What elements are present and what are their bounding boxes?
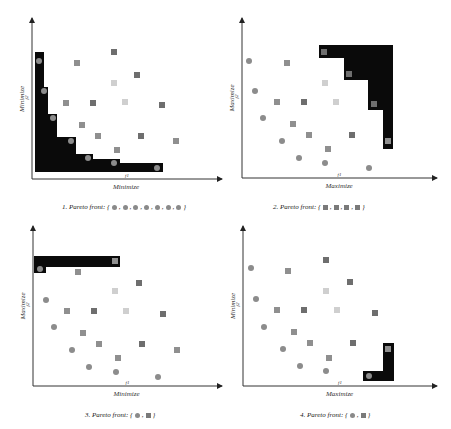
circle-symbol-icon xyxy=(176,205,181,210)
solution-square xyxy=(91,308,97,314)
solution-square xyxy=(321,49,327,55)
solution-square xyxy=(322,80,328,86)
y-axis-tick: f2 xyxy=(234,95,239,99)
solution-square xyxy=(64,308,70,314)
solution-square xyxy=(75,269,81,275)
separator: , xyxy=(151,203,153,211)
solution-square xyxy=(346,71,352,77)
solution-circle xyxy=(261,324,267,330)
solution-circle xyxy=(323,368,329,374)
caption-text: 3. Pareto front: { xyxy=(85,411,133,419)
x-axis-tick: f1 xyxy=(125,173,129,178)
square-symbol-icon xyxy=(361,413,366,418)
circle-symbol-icon xyxy=(350,413,355,418)
solution-circle xyxy=(260,115,266,121)
solution-square xyxy=(323,257,329,263)
pareto-front-region xyxy=(319,45,393,149)
solution-square xyxy=(123,308,129,314)
solution-circle xyxy=(51,324,57,330)
separator: , xyxy=(351,203,353,211)
solution-square xyxy=(301,307,307,313)
solution-square xyxy=(385,346,391,352)
solution-square xyxy=(80,330,86,336)
separator: , xyxy=(119,203,121,211)
solution-square xyxy=(301,99,307,105)
circle-symbol-icon xyxy=(123,205,128,210)
solution-square xyxy=(334,307,340,313)
circle-symbol-icon xyxy=(135,413,140,418)
separator: , xyxy=(130,203,132,211)
solution-square xyxy=(63,100,69,106)
solution-circle xyxy=(279,138,285,144)
solution-square xyxy=(115,355,121,361)
separator: , xyxy=(162,203,164,211)
square-symbol-icon xyxy=(334,205,339,210)
solution-square xyxy=(90,100,96,106)
circle-symbol-icon xyxy=(166,205,171,210)
solution-circle xyxy=(36,58,42,64)
circle-symbol-icon xyxy=(144,205,149,210)
solution-circle xyxy=(41,88,47,94)
solution-square xyxy=(371,101,377,107)
caption-text: 1. Pareto front: { xyxy=(62,203,110,211)
solution-circle xyxy=(68,138,74,144)
solution-circle xyxy=(50,115,56,121)
solution-circle xyxy=(113,369,119,375)
solution-square xyxy=(291,329,297,335)
solution-square xyxy=(112,288,118,294)
solution-square xyxy=(114,147,120,153)
solution-square xyxy=(350,340,356,346)
solution-square xyxy=(323,288,329,294)
solution-circle xyxy=(246,58,252,64)
panel-4 xyxy=(243,226,437,386)
caption-end: } xyxy=(368,411,371,419)
panel-2 xyxy=(242,18,437,178)
solution-square xyxy=(333,99,339,105)
solution-square xyxy=(160,311,166,317)
solution-square xyxy=(139,341,145,347)
square-symbol-icon xyxy=(355,205,360,210)
solution-square xyxy=(136,280,142,286)
separator: , xyxy=(341,203,343,211)
caption-end: } xyxy=(183,203,186,211)
circle-symbol-icon xyxy=(112,205,117,210)
solution-square xyxy=(111,49,117,55)
solution-square xyxy=(95,133,101,139)
square-symbol-icon xyxy=(146,413,151,418)
x-axis-tick: f1 xyxy=(126,380,130,385)
y-axis-tick: f2 xyxy=(25,303,30,307)
solution-square xyxy=(307,340,313,346)
y-axis-tick: f2 xyxy=(235,303,240,307)
solution-square xyxy=(96,341,102,347)
solution-square xyxy=(326,355,332,361)
solution-square xyxy=(349,132,355,138)
circle-symbol-icon xyxy=(133,205,138,210)
solution-circle xyxy=(86,364,92,370)
solution-square xyxy=(274,99,280,105)
solution-circle xyxy=(248,265,254,271)
separator: , xyxy=(330,203,332,211)
solution-square xyxy=(138,133,144,139)
separator: , xyxy=(142,411,144,419)
y-axis-tick: f2 xyxy=(24,95,29,99)
caption-end: } xyxy=(153,411,156,419)
solution-square xyxy=(173,138,179,144)
panel-caption: 4. Pareto front: {,} xyxy=(300,411,370,419)
solution-circle xyxy=(154,165,160,171)
solution-square xyxy=(111,80,117,86)
solution-square xyxy=(79,122,85,128)
solution-square xyxy=(174,347,180,353)
solution-square xyxy=(325,146,331,152)
x-axis-tick: f1 xyxy=(338,380,342,385)
solution-circle xyxy=(85,155,91,161)
x-axis-tick: f1 xyxy=(338,172,342,177)
solution-circle xyxy=(366,373,372,379)
caption-end: } xyxy=(362,203,365,211)
solution-square xyxy=(284,60,290,66)
solution-circle xyxy=(155,374,161,380)
solution-circle xyxy=(111,160,117,166)
solution-square xyxy=(290,121,296,127)
solution-square xyxy=(134,72,140,78)
caption-text: 2. Pareto front: { xyxy=(273,203,321,211)
solution-square xyxy=(306,132,312,138)
